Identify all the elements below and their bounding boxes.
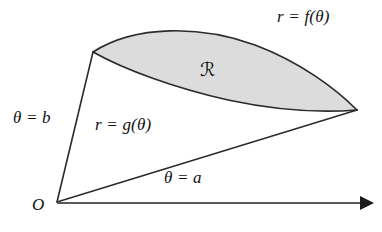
lower-ray-label: θ = a	[164, 169, 202, 186]
region-label: ℛ	[200, 60, 215, 79]
polar-region-figure: r = f(θ) r = g(θ) θ = b θ = a O ℛ	[0, 0, 382, 232]
ray-theta-b	[57, 52, 93, 202]
origin-label: O	[32, 196, 44, 213]
upper-ray-label: θ = b	[13, 109, 51, 126]
figure-canvas	[0, 0, 382, 232]
inner-curve-label: r = g(θ)	[95, 116, 151, 133]
axis-arrowhead-icon	[360, 196, 374, 210]
outer-curve-label: r = f(θ)	[277, 8, 330, 25]
